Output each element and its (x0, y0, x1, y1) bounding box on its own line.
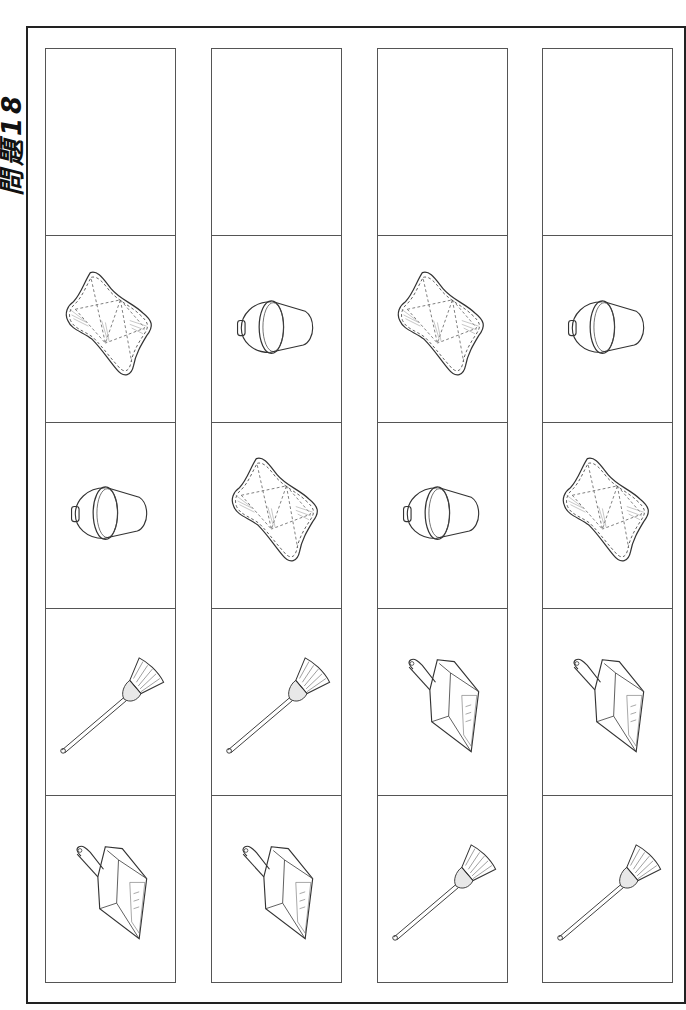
sequence-column-2 (211, 48, 342, 983)
bucket-icon (381, 427, 505, 603)
picture-cell-cloth (212, 423, 341, 610)
picture-cell-broom (46, 609, 175, 796)
dustpan-icon (49, 801, 173, 977)
cleaning-cloth-icon (546, 427, 670, 603)
broom-icon (381, 801, 505, 977)
answer-box[interactable] (543, 49, 672, 236)
broom-icon (215, 614, 339, 790)
dustpan-icon (381, 614, 505, 790)
picture-cell-broom (378, 796, 507, 982)
picture-cell-dustpan (212, 796, 341, 982)
picture-cell-bucket (212, 236, 341, 423)
cleaning-cloth-icon (215, 427, 339, 603)
bucket-icon (546, 241, 670, 417)
bucket-icon (49, 427, 173, 603)
picture-cell-broom (212, 609, 341, 796)
picture-cell-dustpan (543, 609, 672, 796)
problem-title: 問題18 (0, 0, 24, 196)
cleaning-cloth-icon (381, 241, 505, 417)
answer-box[interactable] (212, 49, 341, 236)
broom-icon (546, 801, 670, 977)
picture-cell-cloth (46, 236, 175, 423)
picture-cell-dustpan (378, 609, 507, 796)
sequence-column-3 (377, 48, 508, 983)
picture-cell-bucket (543, 236, 672, 423)
dustpan-icon (215, 801, 339, 977)
picture-cell-bucket (46, 423, 175, 610)
picture-cell-dustpan (46, 796, 175, 982)
picture-cell-bucket (378, 423, 507, 610)
sequence-column-1 (45, 48, 176, 983)
cleaning-cloth-icon (49, 241, 173, 417)
answer-box[interactable] (378, 49, 507, 236)
picture-cell-cloth (543, 423, 672, 610)
broom-icon (49, 614, 173, 790)
picture-cell-cloth (378, 236, 507, 423)
sequence-column-4 (542, 48, 673, 983)
picture-cell-broom (543, 796, 672, 982)
answer-box[interactable] (46, 49, 175, 236)
dustpan-icon (546, 614, 670, 790)
bucket-icon (215, 241, 339, 417)
